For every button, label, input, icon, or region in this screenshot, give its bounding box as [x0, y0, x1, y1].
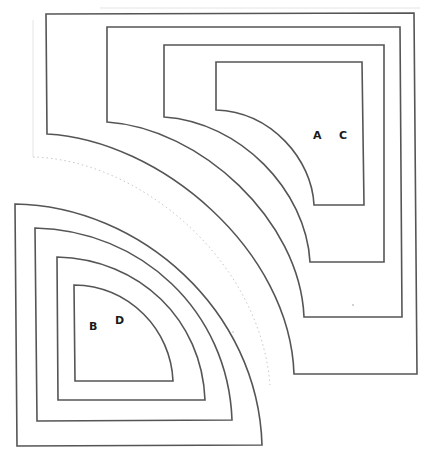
- stray-dot: [232, 331, 234, 333]
- lower-shape-1-outer: [15, 204, 262, 446]
- label-b: B: [89, 320, 97, 333]
- label-a: A: [313, 129, 322, 142]
- lower-shape-4-inner: [74, 285, 173, 381]
- lower-shape-3: [57, 257, 205, 400]
- dotted-guide-arc: [33, 157, 270, 385]
- upper-shape-2: [107, 27, 402, 317]
- stray-dot: [352, 304, 354, 306]
- diagram-canvas: [0, 0, 429, 453]
- label-c: C: [339, 129, 347, 142]
- label-d: D: [115, 314, 124, 327]
